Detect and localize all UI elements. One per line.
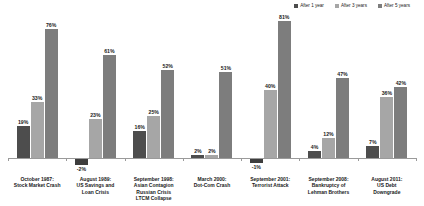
bar-value-label: 52% (163, 63, 173, 69)
legend-label: After 5 years (384, 3, 410, 8)
chart-legend: After 1 year After 3 years After 5 years (0, 3, 424, 8)
bar-group-bars: 16%25%52% (125, 14, 183, 158)
legend-label: After 3 years (341, 3, 367, 8)
bar-column: 23% (89, 14, 102, 158)
bar-group: 2%2%51% (183, 14, 241, 158)
bar[interactable] (147, 116, 160, 158)
bar-column: 16% (133, 14, 146, 158)
bar-column: 36% (380, 14, 393, 158)
bar-column: 19% (17, 14, 30, 158)
bar[interactable] (133, 131, 146, 158)
bar-value-label: 7% (369, 139, 377, 145)
bar-column: 2% (205, 14, 218, 158)
bar-group-bars: 4%12%47% (299, 14, 357, 158)
legend-item-after-5-years[interactable]: After 5 years (378, 3, 410, 8)
legend-label: After 1 year (300, 3, 324, 8)
bar-column: 61% (103, 14, 116, 158)
bar-group-bars: 2%2%51% (183, 14, 241, 158)
bar-value-label: 81% (279, 14, 289, 20)
square-swatch-icon (335, 4, 339, 8)
category-label: September 2001:Terrorist Attack (241, 176, 299, 202)
category-label-line: Dot-Com Crash (184, 182, 240, 188)
category-label: October 1987:Stock Market Crash (8, 176, 66, 202)
category-label: August 2011:US DebtDowngrade (358, 176, 416, 202)
plot-area: 19%33%76%23%61%16%25%52%2%2%51%40%81%4%1… (8, 14, 416, 158)
category-label: September 1998:Asian ContagionRussian Cr… (125, 176, 183, 202)
category-label: September 2008:Bankruptcy ofLehman Broth… (299, 176, 357, 202)
bar-column: 76% (45, 14, 58, 158)
bar-column (250, 14, 263, 158)
bar-column: 52% (161, 14, 174, 158)
bar-group: 4%12%47% (299, 14, 357, 158)
bar-column: 7% (366, 14, 379, 158)
bar[interactable] (219, 72, 232, 158)
bar-value-label: 4% (311, 144, 319, 150)
bar-value-label-negative: -2% (77, 166, 86, 172)
bar-value-label-negative: -1% (252, 164, 261, 170)
category-label-line: Loan Crisis (67, 189, 123, 195)
bar-value-label: 76% (46, 22, 56, 28)
bar-negative[interactable] (75, 159, 88, 165)
legend-item-after-1-year[interactable]: After 1 year (294, 3, 324, 8)
bar-column: 42% (394, 14, 407, 158)
bar-value-label: 33% (32, 95, 42, 101)
bar-column: 51% (219, 14, 232, 158)
bar-column: 2% (191, 14, 204, 158)
bar-value-label: 23% (90, 112, 100, 118)
bar[interactable] (308, 151, 321, 158)
bar-group-bars: 19%33%76% (8, 14, 66, 158)
bar-group: 16%25%52% (125, 14, 183, 158)
category-label: March 2000:Dot-Com Crash (183, 176, 241, 202)
bar-column: 25% (147, 14, 160, 158)
bar[interactable] (89, 119, 102, 158)
square-swatch-icon (294, 4, 298, 8)
bar[interactable] (394, 87, 407, 158)
bar[interactable] (17, 126, 30, 158)
bar-group: 7%36%42% (358, 14, 416, 158)
axis-tick (416, 158, 417, 161)
category-label: August 1989:US Savings andLoan Crisis (66, 176, 124, 202)
bar[interactable] (322, 138, 335, 158)
bar[interactable] (264, 90, 277, 158)
square-swatch-icon (378, 4, 382, 8)
category-label-line: Terrorist Attack (242, 182, 298, 188)
bar-value-label: 19% (18, 119, 28, 125)
category-label-line: Stock Market Crash (9, 182, 65, 188)
bar[interactable] (45, 29, 58, 158)
category-labels: October 1987:Stock Market CrashAugust 19… (8, 176, 416, 202)
legend-item-after-3-years[interactable]: After 3 years (335, 3, 367, 8)
bar-group-bars: 7%36%42% (358, 14, 416, 158)
bar-value-label: 61% (104, 48, 114, 54)
bar-group: 23%61% (66, 14, 124, 158)
category-label-line: LTCM Collapse (126, 195, 182, 201)
bar-value-label: 12% (323, 131, 333, 137)
bar[interactable] (278, 21, 291, 158)
bar-value-label: 16% (135, 124, 145, 130)
bar-value-label: 36% (382, 90, 392, 96)
bar-column: 81% (278, 14, 291, 158)
bar-value-label: 42% (396, 80, 406, 86)
bar-value-label: 51% (221, 65, 231, 71)
bar-column: 40% (264, 14, 277, 158)
bar[interactable] (103, 55, 116, 158)
bar-column (75, 14, 88, 158)
bar-value-label: 2% (194, 148, 202, 154)
category-label-line: Lehman Brothers (300, 189, 356, 195)
bar-value-label: 40% (265, 83, 275, 89)
bar-value-label: 25% (149, 109, 159, 115)
bar-value-label: 47% (337, 71, 347, 77)
bar-column: 47% (336, 14, 349, 158)
bar-column: 33% (31, 14, 44, 158)
bar-negative[interactable] (250, 159, 263, 163)
category-label-line: Asian Contagion (126, 182, 182, 188)
bar-value-label: 2% (208, 148, 216, 154)
bar[interactable] (366, 146, 379, 158)
bar[interactable] (161, 70, 174, 158)
bar[interactable] (31, 102, 44, 158)
bar-group-bars: 23%61% (66, 14, 124, 158)
bar[interactable] (380, 97, 393, 158)
bar-group: 19%33%76% (8, 14, 66, 158)
category-label-line: Downgrade (359, 189, 415, 195)
bar[interactable] (336, 78, 349, 158)
bar-groups: 19%33%76%23%61%16%25%52%2%2%51%40%81%4%1… (8, 14, 416, 158)
